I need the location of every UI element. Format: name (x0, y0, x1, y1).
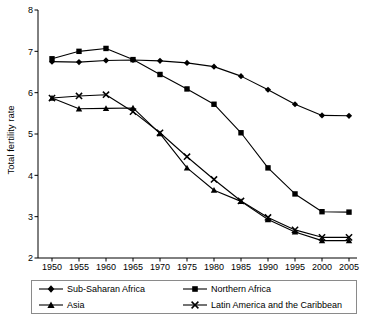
data-point-marker (265, 165, 270, 170)
y-tick-label: 4 (28, 171, 33, 181)
series-asia (49, 95, 352, 243)
x-tick-label: 1995 (285, 262, 305, 272)
data-point-marker (319, 112, 325, 118)
y-axis-tick-labels: 2345678 (28, 5, 33, 263)
chart-legend: Sub-Saharan Africa Northern Africa Asia (31, 280, 357, 314)
series-line (52, 48, 349, 212)
line-chart-svg: Total fertility rate 2345678 19501955196… (0, 0, 365, 272)
data-point-marker (238, 130, 243, 135)
legend-item-northern-africa[interactable]: Northern Africa (180, 281, 356, 297)
series-northern-africa (49, 46, 351, 215)
data-point-marker (292, 191, 297, 196)
data-point-marker (130, 57, 135, 62)
data-point-marker (103, 46, 108, 51)
y-axis-title-text: Total fertility rate (5, 105, 16, 174)
data-point-marker (319, 209, 324, 214)
data-point-marker (184, 86, 189, 91)
y-tick-label: 2 (28, 253, 33, 263)
x-tick-label: 1970 (150, 262, 170, 272)
legend-item-latin-america-and-the-caribbean[interactable]: Latin America and the Caribbean (180, 297, 356, 313)
y-tick-label: 5 (28, 129, 33, 139)
x-tick-label: 1990 (258, 262, 278, 272)
triangle-marker-icon (38, 299, 64, 311)
data-point-marker (49, 56, 54, 61)
x-tick-label: 1955 (69, 262, 89, 272)
y-tick-label: 8 (28, 5, 33, 15)
data-point-marker (265, 87, 271, 93)
x-tick-label: 1975 (177, 262, 197, 272)
data-point-marker (211, 102, 216, 107)
x-tick-label: 2005 (339, 262, 359, 272)
fertility-rate-chart-figure: Total fertility rate 2345678 19501955196… (0, 0, 365, 320)
data-point-marker (184, 154, 190, 160)
x-tick-label: 1960 (96, 262, 116, 272)
y-tick-label: 6 (28, 88, 33, 98)
data-point-marker (211, 176, 217, 182)
y-axis-ticks (35, 10, 39, 258)
data-series-layer (49, 46, 352, 244)
legend-label: Northern Africa (211, 284, 271, 295)
legend-row: Asia Latin America and the Caribbean (32, 297, 356, 313)
legend-item-asia[interactable]: Asia (32, 297, 180, 313)
x-tick-label: 1950 (42, 262, 62, 272)
data-point-marker (346, 113, 352, 119)
x-tick-label: 1980 (204, 262, 224, 272)
data-point-marker (157, 58, 163, 64)
data-point-marker (157, 72, 162, 77)
diamond-marker-icon (38, 283, 64, 295)
legend-label: Sub-Saharan Africa (67, 284, 145, 295)
x-axis-ticks (52, 258, 349, 262)
axis-lines (38, 10, 357, 258)
series-latin-america-and-the-caribbean (49, 92, 352, 241)
series-line (52, 60, 349, 116)
legend-label: Asia (67, 300, 85, 311)
data-point-marker (184, 60, 190, 66)
y-tick-label: 3 (28, 212, 33, 222)
y-axis-title: Total fertility rate (5, 105, 16, 174)
square-marker-icon (182, 283, 208, 295)
x-tick-label: 2000 (312, 262, 332, 272)
legend-label: Latin America and the Caribbean (211, 300, 342, 311)
legend-item-sub-saharan-africa[interactable]: Sub-Saharan Africa (32, 281, 180, 297)
series-line (52, 95, 349, 238)
data-point-marker (76, 59, 82, 65)
data-point-marker (238, 73, 244, 79)
series-sub-saharan-africa (49, 57, 352, 119)
data-point-marker (76, 49, 81, 54)
series-line (52, 98, 349, 241)
x-tick-label: 1965 (123, 262, 143, 272)
x-marker-icon (182, 299, 208, 311)
x-tick-label: 1985 (231, 262, 251, 272)
plot-area: Total fertility rate 2345678 19501955196… (0, 0, 365, 272)
data-point-marker (103, 57, 109, 63)
data-point-marker (211, 64, 217, 70)
data-point-marker (346, 209, 351, 214)
data-point-marker (292, 101, 298, 107)
x-axis-tick-labels: 1950195519601965197019751980198519901995… (42, 262, 359, 272)
y-tick-label: 7 (28, 47, 33, 57)
legend-row: Sub-Saharan Africa Northern Africa (32, 281, 356, 297)
